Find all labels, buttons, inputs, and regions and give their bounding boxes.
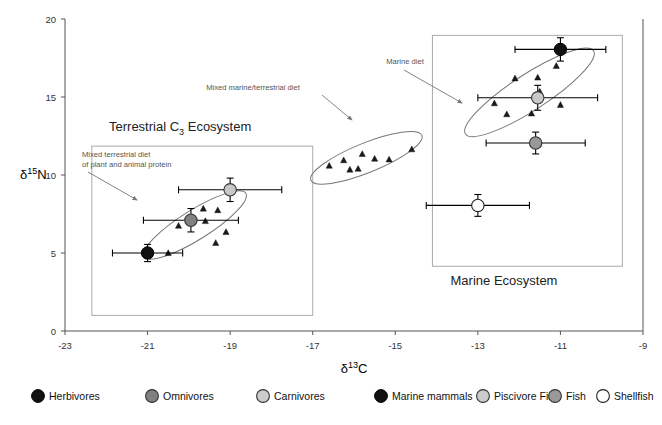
mean-point-marker <box>472 199 484 211</box>
mean-point-marker <box>529 137 541 149</box>
cluster-ellipse <box>456 36 604 149</box>
data-triangle <box>326 162 332 168</box>
marine-diet-annotation: Marine diet <box>386 57 424 66</box>
x-tick-label: -15 <box>388 340 402 351</box>
cluster-ellipses <box>136 36 603 270</box>
x-tick-label: -11 <box>554 340 567 351</box>
legend-label: Omnivores <box>163 390 214 402</box>
legend-item[interactable]: Carnivores <box>257 390 325 403</box>
data-triangle <box>553 63 559 69</box>
legend-marker-carnivores <box>257 390 270 403</box>
data-triangle <box>359 151 365 157</box>
mean-point-marker <box>224 184 236 196</box>
y-tick-label: 0 <box>51 326 56 337</box>
data-triangle <box>213 240 219 246</box>
x-tick-label: -21 <box>141 340 155 351</box>
legend-label: Marine mammals <box>392 390 473 402</box>
legend-item[interactable]: Piscivore Fish <box>477 390 560 403</box>
data-triangle <box>215 207 221 213</box>
x-tick-label: -9 <box>639 340 647 351</box>
chart-canvas: -23-21-19-17-15-13-11-905101520δ13Cδ15N … <box>0 0 662 425</box>
legend-item[interactable]: Fish <box>549 390 586 403</box>
y-tick-label: 15 <box>45 92 56 103</box>
x-tick-label: -23 <box>58 340 72 351</box>
annotation-leader-line <box>404 70 462 103</box>
y-tick-label: 20 <box>45 14 56 25</box>
data-triangle <box>223 229 229 235</box>
axes: -23-21-19-17-15-13-11-905101520δ13Cδ15N <box>20 14 647 377</box>
data-triangle <box>504 111 510 117</box>
legend-label: Shellfish <box>614 390 654 402</box>
terrestrial-ecosystem-label: Terrestrial C3 Ecosystem <box>109 119 251 137</box>
mean-point-marker <box>141 247 153 259</box>
legend-marker-marine-mammals <box>375 390 388 403</box>
ecosystem-box <box>432 35 622 266</box>
ecosystem-box <box>92 146 313 315</box>
x-tick-label: -13 <box>471 340 485 351</box>
legend-label: Carnivores <box>274 390 325 402</box>
legend-label: Fish <box>566 390 586 402</box>
annotation-leader-line <box>322 95 352 120</box>
mean-point-marker <box>554 43 566 55</box>
cluster-ellipse <box>305 122 427 194</box>
annotation-leader-line <box>88 172 137 200</box>
legend-item[interactable]: Shellfish <box>597 390 654 403</box>
mean-points-with-error-bars <box>112 38 605 262</box>
legend-marker-shellfish <box>597 390 610 403</box>
mean-point-marker <box>185 214 197 226</box>
legend-label: Herbivores <box>49 390 100 402</box>
legend-marker-omnivores <box>146 390 159 403</box>
y-tick-label: 10 <box>45 170 56 181</box>
y-axis-title: δ15N <box>20 166 47 182</box>
data-triangle <box>175 222 181 228</box>
data-triangle <box>372 155 378 161</box>
legend: HerbivoresOmnivoresCarnivoresMarine mamm… <box>32 390 654 403</box>
marine-ecosystem-label: Marine Ecosystem <box>451 273 558 288</box>
data-triangle <box>557 102 563 108</box>
data-triangle <box>200 205 206 211</box>
legend-item[interactable]: Marine mammals <box>375 390 473 403</box>
data-triangle <box>386 156 392 162</box>
data-triangle <box>347 166 353 172</box>
legend-marker-piscivore-fish <box>477 390 490 403</box>
data-triangle <box>341 157 347 163</box>
data-triangle <box>491 100 497 106</box>
y-tick-label: 5 <box>51 248 56 259</box>
mixed-marine-terrestrial-diet-annotation: Mixed marine/terrestrial diet <box>206 83 301 92</box>
ecosystem-labels: Terrestrial C3 EcosystemMarine Ecosystem <box>109 119 557 288</box>
isotope-scatter-figure: -23-21-19-17-15-13-11-905101520δ13Cδ15N … <box>0 0 662 425</box>
legend-marker-fish <box>549 390 562 403</box>
data-triangle <box>512 75 518 81</box>
legend-item[interactable]: Herbivores <box>32 390 100 403</box>
mixed-terrestrial-diet-annotation: Mixed terrestrial dietof plant and anima… <box>82 150 172 169</box>
data-triangle <box>409 146 415 152</box>
x-tick-label: -19 <box>223 340 237 351</box>
data-triangle <box>355 166 361 172</box>
legend-item[interactable]: Omnivores <box>146 390 214 403</box>
mean-point-marker <box>532 92 544 104</box>
x-axis-title: δ13C <box>341 360 368 376</box>
data-triangle <box>535 74 541 80</box>
legend-marker-herbivores <box>32 390 45 403</box>
x-tick-label: -17 <box>306 340 320 351</box>
